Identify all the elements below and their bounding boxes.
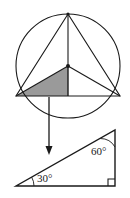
circle-center-dot	[66, 64, 70, 68]
geometry-figure-canvas: 30° 60°	[0, 0, 130, 198]
figure-background	[0, 0, 130, 198]
geometry-figure-container: 30° 60°	[0, 0, 130, 198]
angle-30-label: 30°	[37, 172, 52, 184]
apex-vertex-dot	[66, 12, 69, 15]
angle-60-label: 60°	[91, 145, 106, 157]
